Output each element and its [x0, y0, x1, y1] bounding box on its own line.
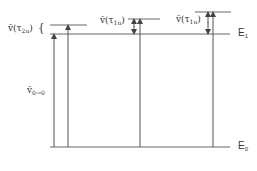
label-e0: E0 [238, 141, 248, 152]
label-tau2u-main: ṽ(τ [8, 23, 22, 33]
label-tau1u-mid-main: ṽ(τ [100, 15, 114, 25]
brace-tau2u: { [38, 21, 45, 34]
label-tau2u-close: ) [29, 23, 33, 33]
label-e0-main: E [238, 140, 245, 151]
label-v00-sub: 0→0 [32, 89, 45, 96]
label-tau1u-mid: ṽ(τ1u) [100, 16, 125, 26]
label-tau1u-right-close: ) [197, 14, 201, 24]
label-e1-sub: 1 [245, 33, 248, 39]
label-e1: E1 [238, 28, 248, 39]
label-e1-main: E [238, 27, 245, 38]
label-v00: ṽ0→0 [27, 86, 45, 96]
label-tau1u-right-main: ṽ(τ [176, 14, 190, 24]
label-tau1u-mid-close: ) [121, 15, 125, 25]
label-tau2u: ṽ(τ2u) { [8, 22, 45, 34]
label-tau1u-right: ṽ(τ1u) [176, 15, 201, 25]
label-e0-sub: 0 [245, 146, 248, 152]
